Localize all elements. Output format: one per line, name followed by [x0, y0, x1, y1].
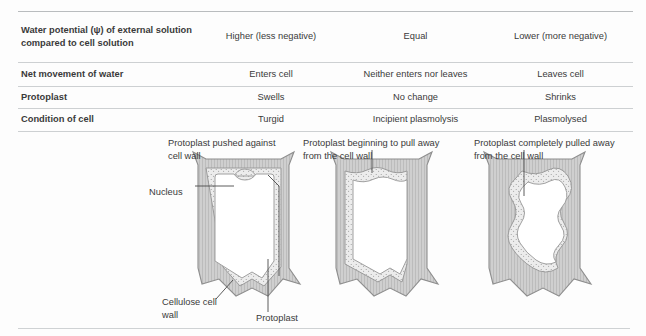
row-label: Water potential (ψ) of external solution… [18, 12, 199, 63]
row-value-higher: Enters cell [199, 63, 343, 87]
row-value-lower: Lower (more negative) [488, 12, 633, 63]
row-label: Net movement of water [18, 63, 199, 87]
figure-bottom-rule [18, 328, 630, 329]
row-value-equal: No change [343, 87, 488, 109]
row-value-lower: Shrinks [488, 87, 633, 109]
table-row: Water potential (ψ) of external solution… [18, 12, 633, 63]
table-row: Net movement of water Enters cell Neithe… [18, 63, 633, 87]
annotation-protoplast: Protoplast [256, 312, 298, 325]
annotation-beginning-to-pull: Protoplast beginning to pull away from t… [303, 137, 455, 162]
row-value-higher: Higher (less negative) [199, 12, 343, 63]
annotation-cellulose-cell-wall: Cellulose cell wall [162, 296, 224, 321]
annotation-nucleus: Nucleus [149, 186, 183, 199]
row-value-equal: Neither enters nor leaves [343, 63, 488, 87]
annotation-completely-pulled: Protoplast completely pulled away from t… [474, 137, 634, 162]
water-potential-table: Water potential (ψ) of external solution… [18, 11, 633, 132]
row-value-lower: Leaves cell [488, 63, 633, 87]
cell-diagram-incipient-plasmolysis [331, 150, 438, 296]
vacuole-2 [353, 177, 407, 274]
cell-diagram-turgid [193, 152, 300, 312]
row-value-equal: Equal [343, 12, 488, 63]
cell-diagram-plasmolysed [484, 150, 591, 296]
row-value-higher: Swells [199, 87, 343, 109]
annotation-protoplast-pushed: Protoplast pushed against cell wall [168, 137, 284, 162]
figure-root: Water potential (ψ) of external solution… [0, 0, 646, 336]
vacuole-1 [215, 174, 274, 278]
row-label: Protoplast [18, 87, 199, 109]
table-row: Protoplast Swells No change Shrinks [18, 87, 633, 109]
